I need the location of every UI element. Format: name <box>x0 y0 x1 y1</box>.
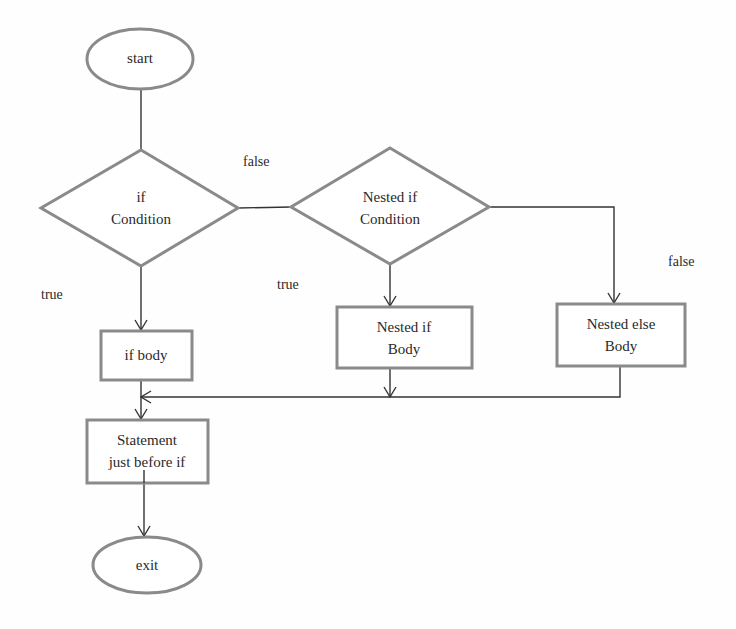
nested-if-body-line1: Nested if <box>377 316 432 338</box>
connector-nested-false <box>489 207 614 303</box>
if-condition-line2: Condition <box>111 208 171 230</box>
nested-else-body-line2: Body <box>587 335 656 357</box>
edge-label-if-false: false <box>243 154 269 170</box>
edge-label-nested-false: false <box>668 254 694 270</box>
nested-else-body-line1: Nested else <box>587 313 656 335</box>
nested-if-condition-label: Nested if Condition <box>360 186 420 230</box>
nested-if-condition-line1: Nested if <box>360 186 420 208</box>
connector-else-body-merge <box>141 366 620 397</box>
nested-if-condition-line2: Condition <box>360 208 420 230</box>
exit-label: exit <box>136 554 159 576</box>
statement-label: Statement just before if <box>109 429 186 473</box>
if-condition-label: if Condition <box>111 186 171 230</box>
edge-label-if-true: true <box>41 287 63 303</box>
if-condition-line1: if <box>111 186 171 208</box>
edge-label-nested-true: true <box>277 277 299 293</box>
connector-if-false-to-nested <box>238 207 291 208</box>
if-body-label: if body <box>125 344 168 366</box>
nested-if-body-line2: Body <box>377 338 432 360</box>
statement-line1: Statement <box>109 429 186 451</box>
start-label: start <box>127 47 153 69</box>
statement-line2: just before if <box>109 451 186 473</box>
nested-if-body-label: Nested if Body <box>377 316 432 360</box>
nested-else-body-label: Nested else Body <box>587 313 656 357</box>
